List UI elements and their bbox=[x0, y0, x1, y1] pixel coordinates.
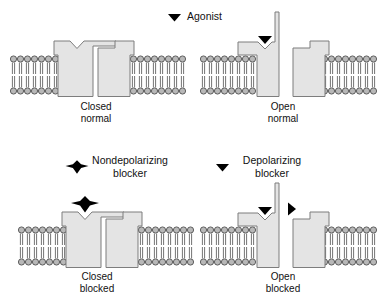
agonist-legend-text: Agonist bbox=[187, 10, 222, 22]
caption-closed-blocked-line2: blocked bbox=[80, 283, 114, 295]
figure: Agonist Nondepolarizing blocker Depolari… bbox=[0, 0, 388, 308]
depolarizing-blocker-pore-icon bbox=[288, 203, 296, 216]
caption-open-blocked: Open blocked bbox=[266, 271, 300, 295]
caption-closed-blocked: Closed blocked bbox=[80, 271, 114, 295]
channel-open-normal bbox=[200, 12, 377, 97]
depolarizing-legend-label: Depolarizing blocker bbox=[243, 154, 301, 179]
agonist-icon bbox=[258, 36, 272, 44]
nondepolarizing-legend-label: Nondepolarizing blocker bbox=[92, 154, 168, 179]
nondepolarizing-legend-line2: blocker bbox=[92, 167, 168, 180]
depolarizing-legend-line2: blocker bbox=[243, 167, 301, 180]
caption-open-normal-line2: normal bbox=[268, 113, 299, 125]
caption-open-normal-line1: Open bbox=[268, 101, 299, 113]
agonist-legend-label: Agonist bbox=[187, 10, 222, 23]
caption-open-normal: Open normal bbox=[268, 101, 299, 125]
caption-open-blocked-line2: blocked bbox=[266, 283, 300, 295]
depolarizing-blocker-icon bbox=[258, 207, 272, 215]
nondepolarizing-legend-icon bbox=[66, 160, 89, 174]
nondepolarizing-legend-line1: Nondepolarizing bbox=[92, 154, 168, 167]
channel-closed-blocked bbox=[18, 212, 194, 268]
caption-closed-normal-line2: normal bbox=[80, 113, 111, 125]
nondepolarizing-blocker-icon bbox=[71, 196, 99, 213]
depolarizing-legend-icon bbox=[216, 164, 229, 171]
caption-open-blocked-line1: Open bbox=[266, 271, 300, 283]
caption-closed-normal: Closed normal bbox=[80, 101, 111, 125]
figure-graphics bbox=[0, 0, 388, 308]
channel-open-blocked bbox=[200, 183, 377, 268]
caption-closed-blocked-line1: Closed bbox=[80, 271, 114, 283]
depolarizing-legend-line1: Depolarizing bbox=[243, 154, 301, 167]
caption-closed-normal-line1: Closed bbox=[80, 101, 111, 113]
channel-closed-normal bbox=[10, 41, 186, 97]
agonist-legend-icon bbox=[168, 14, 181, 21]
